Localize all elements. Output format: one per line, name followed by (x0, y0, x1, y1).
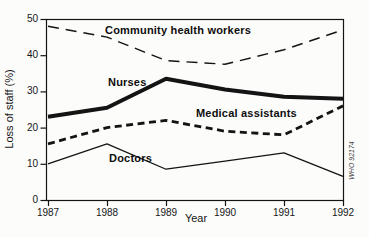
y-tick-label: 10 (14, 159, 38, 169)
y-tick-label: 20 (14, 123, 38, 133)
series-label-community-health-workers: Community health workers (105, 24, 251, 36)
y-tick-label: 50 (14, 14, 38, 24)
series-label-doctors: Doctors (109, 152, 152, 164)
series-label-medical-assistants: Medical assistants (196, 107, 297, 119)
x-tick-label: 1991 (267, 208, 301, 218)
y-tick-label: 40 (14, 50, 38, 60)
y-axis-title: Loss of staff (%) (3, 63, 15, 155)
x-tick-label: 1987 (31, 208, 65, 218)
line-chart-figure: Loss of staff (%) Community health worke… (0, 0, 369, 237)
series-label-nurses: Nurses (108, 76, 147, 88)
y-tick-label: 0 (14, 195, 38, 205)
y-tick-label: 30 (14, 86, 38, 96)
x-tick-label: 1988 (90, 208, 124, 218)
series-line-3 (48, 144, 343, 177)
who-reference-watermark: WHO 92174 (348, 140, 355, 182)
x-tick-label: 1989 (149, 208, 183, 218)
x-tick-label: 1990 (208, 208, 242, 218)
x-tick-label: 1992 (326, 208, 360, 218)
